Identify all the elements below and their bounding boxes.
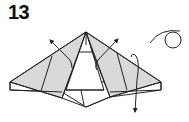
origami-diagram xyxy=(0,0,189,122)
eye-view-symbol xyxy=(150,31,181,49)
eye-pupil xyxy=(165,32,181,48)
